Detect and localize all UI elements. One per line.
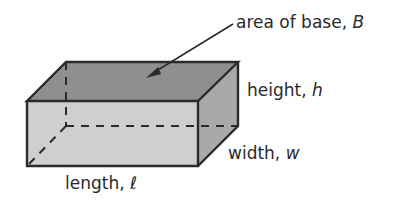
base-variable: B xyxy=(352,12,364,32)
height-label: height, h xyxy=(247,82,323,99)
length-label-text: length, xyxy=(65,173,130,193)
width-label: width, w xyxy=(228,145,300,162)
width-label-text: width, xyxy=(228,143,286,163)
height-label-text: height, xyxy=(247,80,312,100)
base-label-text: area of base, xyxy=(236,12,352,32)
base-label: area of base, B xyxy=(236,14,364,31)
length-label: length, ℓ xyxy=(65,175,137,192)
length-variable: ℓ xyxy=(130,173,137,193)
front-face xyxy=(27,101,198,166)
height-variable: h xyxy=(312,80,323,100)
width-variable: w xyxy=(286,143,300,163)
